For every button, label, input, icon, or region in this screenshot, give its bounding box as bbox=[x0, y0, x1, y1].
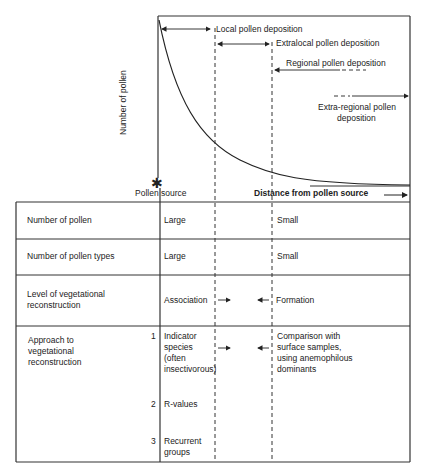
cell-near: Large bbox=[164, 215, 186, 226]
cell-far: Formation bbox=[276, 295, 314, 306]
zone-extralocal-label: Extralocal pollen deposition bbox=[276, 38, 379, 49]
item-number: 2 bbox=[151, 399, 156, 410]
cell-near: Association bbox=[164, 295, 207, 306]
row-label-approach-1: Approach to bbox=[28, 335, 74, 346]
zone-local-label: Local pollen deposition bbox=[216, 24, 302, 35]
item-line: (often bbox=[164, 353, 186, 364]
cell-far: Small bbox=[277, 251, 298, 262]
item-line: R-values bbox=[164, 399, 198, 410]
zone-regional-label: Regional pollen deposition bbox=[286, 58, 386, 69]
row-label-level-1: Level of vegetational bbox=[27, 289, 105, 300]
item-line: Indicator bbox=[164, 331, 197, 342]
row-label-approach-2: vegetational bbox=[28, 346, 74, 357]
row-label-number-of-pollen: Number of pollen bbox=[27, 215, 92, 226]
row-label-level-2: reconstruction bbox=[27, 300, 80, 311]
item-line: Recurrent bbox=[164, 436, 201, 447]
item-line: species bbox=[164, 342, 193, 353]
x-axis-label: Distance from pollen source bbox=[254, 188, 368, 199]
item-line: groups bbox=[164, 447, 190, 458]
far-line: Comparison with bbox=[277, 331, 340, 342]
far-line: using anemophilous bbox=[277, 353, 353, 364]
item-number: 1 bbox=[151, 331, 156, 342]
y-axis-label: Number of pollen bbox=[118, 70, 129, 135]
cell-far: Small bbox=[277, 215, 298, 226]
zone-extraregional-label-1: Extra-regional pollen bbox=[318, 102, 396, 113]
origin-label: Pollen source bbox=[135, 188, 187, 199]
item-line: insectivorous) bbox=[164, 364, 216, 375]
diagram-lines bbox=[0, 0, 428, 474]
item-number: 3 bbox=[151, 436, 156, 447]
row-label-number-of-pollen-types: Number of pollen types bbox=[27, 251, 114, 262]
row-label-approach-3: reconstruction bbox=[28, 357, 81, 368]
far-line: dominants bbox=[277, 364, 316, 375]
far-line: surface samples, bbox=[277, 342, 341, 353]
cell-near: Large bbox=[164, 251, 186, 262]
zone-extraregional-label-2: deposition bbox=[337, 113, 376, 124]
